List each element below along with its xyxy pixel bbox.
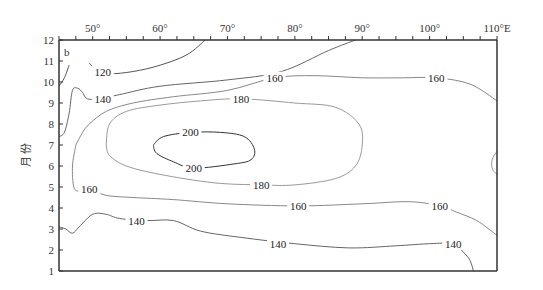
y-tick-label: 7 <box>49 139 55 151</box>
y-tick-label: 12 <box>43 34 54 46</box>
y-tick-label: 8 <box>49 118 55 130</box>
contour-label: 140 <box>445 238 462 250</box>
contour-label: 200 <box>186 162 203 174</box>
contour-160 <box>76 76 497 145</box>
contour-120 <box>59 65 69 86</box>
x-tick-label: 110°E <box>483 22 510 34</box>
contour-label: 180 <box>233 93 250 105</box>
contour-label: 160 <box>431 200 448 212</box>
contour-label: 140 <box>95 93 112 105</box>
y-tick-label: 9 <box>49 97 55 109</box>
contour-label: 140 <box>128 215 145 227</box>
contour-label: 160 <box>266 72 283 84</box>
contour-140 <box>59 213 473 271</box>
contour-label: 160 <box>428 72 445 84</box>
contour-label: 200 <box>182 126 199 138</box>
contour-label: 120 <box>95 66 112 78</box>
contour-label: 160 <box>290 200 307 212</box>
x-tick-label: 50° <box>85 22 100 34</box>
contour-180 <box>106 99 362 186</box>
y-tick-label: 10 <box>43 76 55 88</box>
y-axis-label: 月 份 <box>20 143 32 168</box>
x-tick-label: 80° <box>287 22 302 34</box>
x-tick-label: 100° <box>419 22 440 34</box>
x-tick-label: 90° <box>355 22 370 34</box>
y-tick-label: 4 <box>49 202 55 214</box>
y-tick-label: 3 <box>49 223 55 235</box>
x-tick-label: 70° <box>220 22 235 34</box>
panel-label: b <box>64 46 70 58</box>
contour-label: 160 <box>81 183 98 195</box>
y-tick-label: 2 <box>49 244 55 256</box>
contour-140 <box>59 40 355 137</box>
y-tick-label: 11 <box>43 55 54 67</box>
contour-label: 180 <box>253 179 270 191</box>
x-tick-label: 60° <box>152 22 167 34</box>
contour-label: 140 <box>270 238 287 250</box>
contour-180 <box>492 151 497 174</box>
contour-labels: 1201401401401401601601601601601801802002… <box>78 66 464 250</box>
y-tick-label: 5 <box>49 181 55 193</box>
y-tick-label: 1 <box>49 265 55 277</box>
y-tick-label: 6 <box>49 160 55 172</box>
contour-chart: 1201401401401401601601601601601801802002… <box>0 0 543 290</box>
